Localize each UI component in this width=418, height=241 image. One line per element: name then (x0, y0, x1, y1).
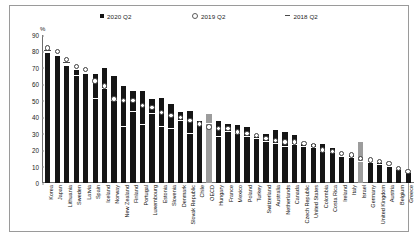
bar-slot (166, 35, 175, 183)
y-axis-tick: 20 (32, 147, 42, 154)
x-label-slot: Italy (347, 184, 356, 230)
bar-slot (147, 35, 156, 183)
bar-finland[interactable] (130, 91, 135, 183)
bar-denmark[interactable] (178, 112, 183, 183)
y-axis-tick-mark (42, 35, 44, 36)
marker-2018-france (224, 131, 231, 132)
bar-slot (204, 35, 213, 183)
marker-2019-norway (111, 96, 116, 101)
marker-2019-greece (405, 169, 410, 174)
bar-slot (403, 35, 412, 183)
marker-2018-poland (243, 136, 250, 137)
x-label-slot: Norway (109, 184, 118, 230)
y-axis-tick-mark (42, 117, 44, 118)
x-label-slot: Chile (195, 184, 204, 230)
bar-czech-republic[interactable] (301, 144, 306, 183)
bar-israel[interactable] (358, 142, 363, 183)
legend-item-2020-q2[interactable]: 2020 Q2 (100, 13, 131, 20)
x-label-slot: Costa Rica (328, 184, 337, 230)
bar-austria[interactable] (387, 167, 392, 183)
bar-chile[interactable] (197, 121, 202, 183)
bar-france[interactable] (225, 124, 230, 183)
bar-ireland[interactable] (339, 157, 344, 183)
bar-slot (81, 35, 90, 183)
bar-norway[interactable] (111, 76, 116, 183)
x-label-slot: Colombia (318, 184, 327, 230)
x-label-slot: Finland (128, 184, 137, 230)
plot-area: % 0102030405060708090 KoreaJapanLithuani… (9, 26, 409, 232)
y-axis-tick: 40 (32, 114, 42, 121)
legend-item-2018-q2[interactable]: 2018 Q2 (285, 13, 317, 20)
bar-korea[interactable] (45, 53, 50, 183)
bar-lithuania[interactable] (64, 66, 69, 183)
x-axis-label-greece: Greece (408, 185, 414, 203)
bar-greece[interactable] (406, 173, 411, 183)
marker-2018-latvia (82, 73, 89, 74)
x-label-slot: Estonia (157, 184, 166, 230)
marker-2019-mexico (235, 129, 240, 134)
marker-2019-oecd (206, 124, 211, 129)
marker-2018-slovenia (167, 128, 174, 129)
bar-slot (318, 35, 327, 183)
y-axis-tick: 60 (32, 81, 42, 88)
x-label-slot: Canada (290, 184, 299, 230)
bar-italy[interactable] (349, 155, 354, 183)
bar-slot (157, 35, 166, 183)
dash-icon (285, 15, 290, 16)
bar-slot (347, 35, 356, 183)
y-axis-tick-mark (42, 51, 44, 52)
x-label-slot: Germany (365, 184, 374, 230)
bar-slot (271, 35, 280, 183)
marker-2018-sweden (73, 75, 80, 76)
bar-luxembourg[interactable] (149, 99, 154, 183)
bar-slot (71, 35, 80, 183)
bar-slot (328, 35, 337, 183)
chart-screenshot: 2020 Q22019 Q22018 Q2 % 0102030405060708… (0, 0, 418, 241)
x-label-slot: Japan (52, 184, 61, 230)
bar-slot (337, 35, 346, 183)
bar-sweden[interactable] (74, 70, 79, 183)
marker-2019-spain (92, 78, 97, 83)
x-label-slot: OECD (204, 184, 213, 230)
y-axis-tick-mark (42, 150, 44, 151)
y-axis-tick: 50 (32, 97, 42, 104)
marker-2019-italy (349, 152, 354, 157)
bar-slot (299, 35, 308, 183)
bar-turkey[interactable] (254, 137, 259, 183)
bar-slot (252, 35, 261, 183)
bar-slot (309, 35, 318, 183)
open-circle-icon (192, 13, 199, 20)
x-label-slot: Hungary (214, 184, 223, 230)
x-label-slot: United Kingdom (375, 184, 384, 230)
marker-2018-lithuania (63, 62, 70, 63)
x-label-slot: Sweden (71, 184, 80, 230)
bar-united-kingdom[interactable] (377, 163, 382, 183)
y-axis-tick: 90 (32, 32, 42, 39)
bar-slot (195, 35, 204, 183)
y-axis-tick: 80 (32, 48, 42, 55)
x-label-slot: Netherlands (280, 184, 289, 230)
bar-slot (365, 35, 374, 183)
bar-germany[interactable] (368, 162, 373, 183)
x-label-slot: Slovenia (166, 184, 175, 230)
bar-united-states[interactable] (311, 144, 316, 183)
y-axis-tick-mark (42, 134, 44, 135)
x-label-slot: Korea (43, 184, 52, 230)
bar-belgium[interactable] (396, 170, 401, 183)
chart-legend: 2020 Q22019 Q22018 Q2 (9, 9, 409, 23)
filled-square-icon (100, 14, 104, 18)
marker-2018-japan (54, 55, 61, 56)
bar-slot (375, 35, 384, 183)
bar-slot (261, 35, 270, 183)
bar-slot (233, 35, 242, 183)
bar-latvia[interactable] (83, 74, 88, 183)
bar-slot (119, 35, 128, 183)
legend-item-2019-q2[interactable]: 2019 Q2 (192, 13, 226, 20)
x-label-slot: Belgium (394, 184, 403, 230)
x-label-slot: Israel (356, 184, 365, 230)
y-axis-tick: 70 (32, 64, 42, 71)
bar-spain[interactable] (93, 74, 98, 183)
bar-japan[interactable] (55, 56, 60, 183)
marker-2019-netherlands (282, 139, 287, 144)
bar-slot (100, 35, 109, 183)
